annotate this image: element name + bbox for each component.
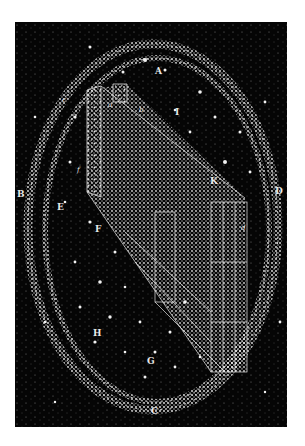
engraving-plate: A a b c I B E f K D F d H G C <box>15 22 287 427</box>
label-b: b <box>139 106 144 114</box>
label-B: B <box>17 189 25 199</box>
label-G: G <box>147 356 155 366</box>
star-field-illustration: A a b c I B E f K D F d H G C <box>15 22 287 427</box>
label-c: c <box>62 96 66 104</box>
label-E: E <box>57 202 64 212</box>
label-D: D <box>275 186 283 196</box>
label-a: a <box>108 101 112 109</box>
label-H: H <box>93 328 102 338</box>
label-C: C <box>151 406 158 416</box>
label-I: I <box>175 107 179 117</box>
label-F: F <box>95 224 102 234</box>
label-d: d <box>241 224 246 232</box>
label-A: A <box>154 66 163 76</box>
label-K: K <box>210 176 219 186</box>
